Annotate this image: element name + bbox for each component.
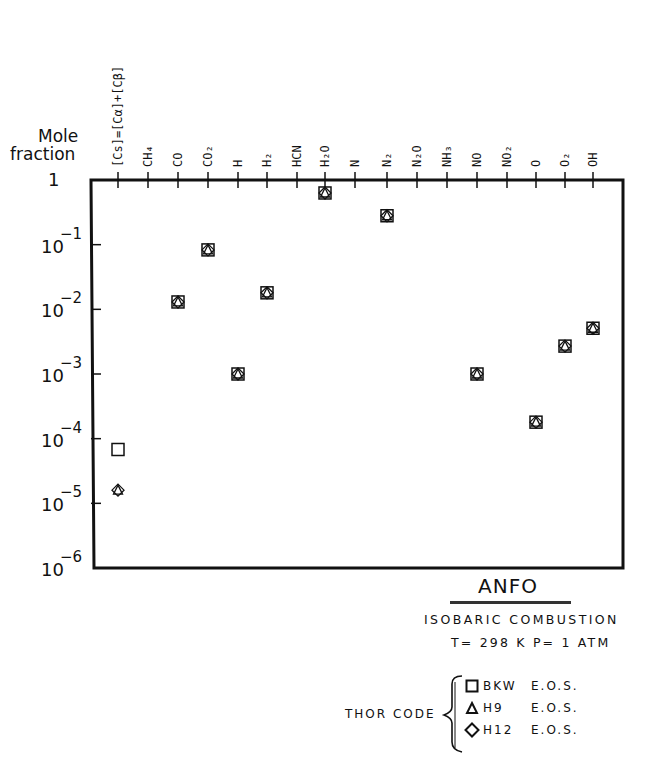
x-category-label: NO: [470, 153, 484, 167]
x-category-label: H: [231, 160, 245, 167]
legend-group-label: THOR CODE: [345, 707, 436, 721]
y-tick-label: 1: [48, 169, 59, 190]
x-category-label: N: [348, 160, 362, 167]
legend-eos: E.O.S.: [531, 723, 579, 737]
chart-plot: 110−110−210−310−410−510−6Molefraction[Cs…: [0, 0, 665, 776]
x-category-label: CO₂: [201, 145, 215, 167]
svg-text:fraction: fraction: [10, 144, 75, 164]
svg-text:−2: −2: [60, 289, 82, 307]
legend-code: BKW: [483, 679, 531, 693]
x-category-label: H₂: [260, 153, 274, 167]
legend-item-h12: H12 E.O.S.: [461, 720, 579, 740]
x-category-label: H₂O: [318, 145, 332, 167]
x-category-label: CH₄: [141, 145, 155, 167]
legend-item-bkw: BKW E.O.S.: [461, 676, 579, 696]
x-category-label: N₂O: [410, 145, 424, 167]
svg-text:−6: −6: [60, 548, 82, 566]
y-axis-title: Mole: [38, 126, 78, 146]
x-category-label: NH₃: [440, 145, 454, 167]
x-category-label: [Cs]=[Cα]+[Cβ]: [111, 66, 125, 167]
legend-item-h9: H9 E.O.S.: [461, 698, 579, 718]
plot-frame: [91, 180, 623, 568]
svg-text:−3: −3: [60, 354, 82, 372]
chart-title: ANFO: [478, 574, 538, 598]
chart-subtitle-line1: ISOBARIC COMBUSTION: [424, 612, 619, 627]
svg-text:−4: −4: [60, 419, 82, 437]
diamond-icon: [461, 722, 483, 738]
x-category-label: O₂: [558, 153, 572, 167]
legend-eos: E.O.S.: [531, 701, 579, 715]
legend-code: H9: [483, 701, 531, 715]
chart-subtitle-line2: T= 298 K P= 1 ATM: [451, 635, 610, 650]
square-icon: [461, 679, 483, 693]
x-category-label: NO₂: [500, 145, 514, 167]
legend-code: H12: [483, 723, 531, 737]
x-category-label: OH: [586, 153, 600, 167]
svg-text:−1: −1: [60, 225, 82, 243]
x-category-label: O: [529, 160, 543, 167]
legend-eos: E.O.S.: [531, 679, 579, 693]
triangle-icon: [461, 701, 483, 715]
x-category-label: CO: [171, 153, 185, 167]
x-category-label: N₂: [380, 153, 394, 167]
svg-text:−5: −5: [60, 483, 82, 501]
data-point-square: [112, 443, 124, 455]
x-category-label: HCN: [290, 145, 304, 167]
title-underline: [450, 601, 571, 604]
